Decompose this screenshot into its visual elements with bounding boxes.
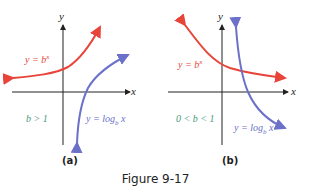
exp-label-sup: x <box>46 53 49 61</box>
panel-label-b: (b) <box>222 155 238 166</box>
figure-canvas <box>0 0 311 193</box>
log-label-sub: b <box>263 128 267 136</box>
log-label-b: y = logb x <box>234 122 273 136</box>
y-axis-label-a: y <box>59 10 64 22</box>
y-axis-label-b: y <box>218 10 223 22</box>
log-label-a: y = logb x <box>86 113 125 127</box>
condition-a: b > 1 <box>26 113 48 124</box>
x-axis-label-b: x <box>291 85 296 97</box>
exp-label-text: y = b <box>25 54 46 65</box>
exp-label-sup: x <box>199 58 202 66</box>
log-curve <box>77 55 128 143</box>
exp-label-a: y = bx <box>25 53 49 65</box>
log-label-text: y = log <box>86 113 115 124</box>
log-label-var: x <box>121 113 125 124</box>
log-label-sub: b <box>115 119 119 127</box>
exp-label-b: y = bx <box>178 58 202 70</box>
log-label-var: x <box>269 122 273 133</box>
x-axis-label-a: x <box>131 85 136 97</box>
condition-b: 0 < b < 1 <box>176 113 215 124</box>
panel-label-a: (a) <box>62 155 78 166</box>
exp-label-text: y = b <box>178 59 199 70</box>
panel-a <box>12 25 130 145</box>
figure-caption: Figure 9-17 <box>0 172 311 186</box>
log-label-text: y = log <box>234 122 263 133</box>
